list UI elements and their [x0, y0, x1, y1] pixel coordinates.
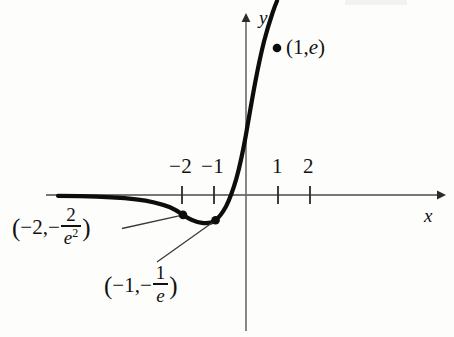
point-marker-1e [273, 44, 282, 53]
x-tick-label-neg2: −2 [169, 156, 192, 177]
leader-line-neg2 [122, 216, 179, 229]
paren-close: ) [318, 37, 325, 58]
x-value: −2 [20, 217, 42, 238]
point-marker-neg2 [179, 211, 188, 220]
x-tick-label-pos2: 2 [303, 156, 314, 177]
fraction-1-over-e: 1 e [153, 263, 169, 306]
graph-canvas [0, 0, 454, 337]
fraction-2-over-e-squared: 2 e2 [61, 205, 81, 248]
paren-close: ) [82, 215, 90, 240]
fraction-denominator: e [153, 286, 169, 306]
minus-sign: − [48, 217, 60, 238]
x-axis-label: x [424, 206, 432, 225]
leader-line-neg1 [157, 223, 213, 263]
point-label-neg2: ( −2 , − 2 e2 ) [12, 206, 91, 249]
denominator-exponent: 2 [72, 226, 78, 240]
x-value: −1 [112, 275, 134, 296]
paren-open: ( [12, 215, 20, 240]
paren-close: ) [169, 273, 177, 298]
y-value: e [309, 37, 318, 58]
x-tick-label-pos1: 1 [272, 156, 283, 177]
y-axis-arrowhead [242, 13, 251, 22]
fraction-denominator: e2 [61, 228, 81, 248]
fraction-numerator: 1 [153, 263, 169, 282]
fraction-numerator: 2 [61, 205, 81, 224]
minus-sign: − [140, 275, 152, 296]
point-label-neg1: ( −1 , − 1 e ) [104, 264, 178, 307]
x-axis-arrowhead [437, 191, 446, 200]
point-marker-neg1 [211, 216, 220, 225]
paren-open: ( [286, 37, 293, 58]
denominator-base: e [64, 227, 72, 248]
x-tick-label-neg1: −1 [201, 156, 224, 177]
curve-x-exp-x [58, 1, 277, 223]
y-axis-label: y [259, 8, 267, 27]
paren-open: ( [104, 273, 112, 298]
point-label-1-e: ( 1 , e ) [286, 37, 325, 58]
graph-figure: y x −2 −1 1 2 ( 1 , e ) ( −2 , − 2 e2 [0, 0, 454, 337]
x-value: 1 [293, 37, 304, 58]
